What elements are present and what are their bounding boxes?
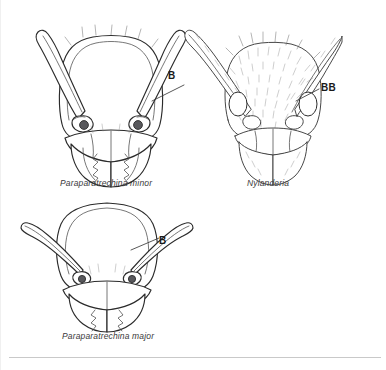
caption-nylanderia: Nylanderia — [247, 178, 289, 188]
figure-plate: B Paraparatrechina minor — [0, 0, 386, 370]
right-compound-eye — [299, 92, 317, 116]
ant-head-drawing-nylanderia — [183, 12, 343, 187]
bottom-divider — [9, 357, 381, 358]
figure-paraparatrechina-minor — [21, 12, 196, 187]
left-antennal-bulb-major — [78, 275, 85, 282]
caption-paraparatrechina-minor: Paraparatrechina minor — [60, 178, 152, 188]
left-antennal-bulb — [80, 121, 89, 130]
ant-head-drawing-minor — [21, 12, 196, 187]
callout-label-b-minor: B — [168, 70, 176, 81]
left-compound-eye — [229, 92, 247, 116]
figure-paraparatrechina-major — [19, 198, 194, 333]
right-antennal-bulb — [134, 121, 143, 130]
caption-paraparatrechina-major: Paraparatrechina major — [62, 331, 154, 341]
figure-nylanderia — [183, 12, 343, 187]
right-antennal-bulb-major — [128, 275, 135, 282]
callout-label-b-major: B — [159, 235, 167, 246]
callout-label-bb-nylanderia: BB — [321, 82, 336, 93]
ant-head-drawing-major — [19, 198, 194, 333]
